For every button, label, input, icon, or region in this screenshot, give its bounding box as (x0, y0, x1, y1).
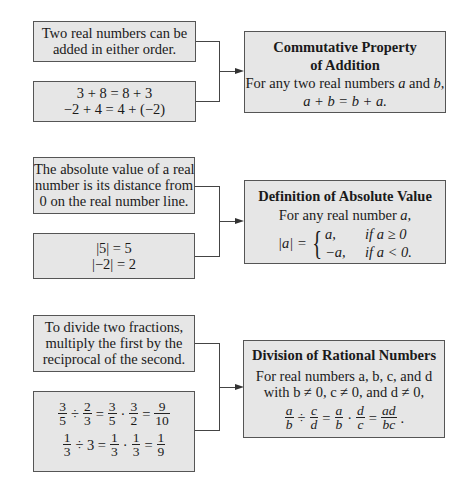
case-row: a,if a ≥ 0 (325, 225, 412, 243)
operator: · (347, 410, 352, 426)
operator: ÷ 3 = (75, 437, 106, 453)
example-line: 35÷23=35·32=910 (34, 400, 194, 427)
operator: = (369, 410, 377, 426)
fraction: 19 (157, 431, 166, 458)
example-line: −2 + 4 = 4 + (−2) (34, 101, 195, 117)
connector (219, 221, 236, 222)
division-examples-box: 35÷23=35·32=910 13÷ 3 =13·13=19 (33, 391, 195, 472)
absolute-value-rule-box: Definition of Absolute Value For any rea… (244, 180, 446, 264)
connector (195, 430, 220, 431)
operator: ÷ (298, 410, 306, 426)
rule-statement: with b ≠ 0, c ≠ 0, and d ≠ 0, (244, 384, 444, 400)
connector (195, 186, 220, 187)
description-line: number is its distance from (34, 177, 194, 193)
commutative-examples-box: 3 + 8 = 8 + 3 −2 + 4 = 4 + (−2) (33, 81, 196, 122)
case-row: −a,if a < 0. (325, 243, 412, 261)
rule-title: of Addition (245, 56, 445, 74)
connector (196, 101, 220, 102)
operator: = (142, 406, 150, 422)
description-line: Two real numbers can be (34, 25, 195, 41)
commutative-description-box: Two real numbers can be added in either … (33, 21, 196, 62)
fraction: dc (356, 404, 365, 431)
operator: = (144, 437, 152, 453)
example-line: 13÷ 3 =13·13=19 (34, 431, 194, 458)
example-line: 3 + 8 = 8 + 3 (34, 85, 195, 101)
fraction: adbc (381, 404, 397, 431)
operator: · (121, 406, 126, 422)
connector (196, 41, 220, 42)
rule-title: Division of Rational Numbers (244, 347, 444, 363)
arrow-right-icon (235, 68, 244, 74)
example-line: |5| = 5 (34, 240, 194, 256)
operator: · (123, 437, 128, 453)
commutative-rule-box: Commutative Property of Addition For any… (244, 31, 446, 113)
description-line: added in either order. (34, 41, 195, 57)
operator: = (96, 406, 104, 422)
fraction: 23 (83, 400, 92, 427)
fraction: 32 (129, 400, 138, 427)
piecewise-formula: |a| = { a,if a ≥ 0 −a,if a < 0. (278, 225, 412, 261)
left-brace-icon: { (312, 226, 322, 260)
rule-statement: For any real number a, (245, 206, 445, 225)
fraction: 13 (63, 431, 72, 458)
connector (195, 256, 220, 257)
fraction: cd (310, 404, 319, 431)
fraction: 35 (108, 400, 117, 427)
description-line: The absolute value of a real (34, 161, 194, 177)
description-line: 0 on the real number line. (34, 193, 194, 209)
fraction: ab (335, 404, 344, 431)
example-line: |−2| = 2 (34, 256, 194, 272)
absolute-value-description-box: The absolute value of a real number is i… (33, 157, 195, 214)
arrow-right-icon (235, 218, 244, 224)
description-line: reciprocal of the second. (34, 351, 194, 367)
operator: = (322, 410, 330, 426)
connector (195, 343, 220, 344)
rule-formula: ab÷cd=ab·dc=adbc. (244, 404, 444, 431)
rule-statement: For any two real numbers a and b, (245, 74, 445, 92)
operator: ÷ (71, 406, 79, 422)
fraction: ab (285, 404, 294, 431)
connector (219, 387, 236, 388)
fraction: 13 (132, 431, 141, 458)
absolute-value-examples-box: |5| = 5 |−2| = 2 (33, 233, 195, 279)
description-line: To divide two fractions, (34, 319, 194, 335)
division-rule-box: Division of Rational Numbers For real nu… (243, 340, 445, 438)
description-line: multiply the first by the (34, 335, 194, 351)
division-description-box: To divide two fractions, multiply the fi… (33, 315, 195, 372)
fraction: 35 (58, 400, 67, 427)
rule-title: Definition of Absolute Value (245, 187, 445, 206)
rule-formula: a + b = b + a. (245, 92, 445, 110)
rule-statement: For real numbers a, b, c, and d (244, 368, 444, 384)
connector (219, 71, 236, 72)
fraction: 910 (154, 400, 170, 427)
operator: . (401, 410, 405, 426)
fraction: 13 (110, 431, 119, 458)
rule-title: Commutative Property (245, 38, 445, 56)
